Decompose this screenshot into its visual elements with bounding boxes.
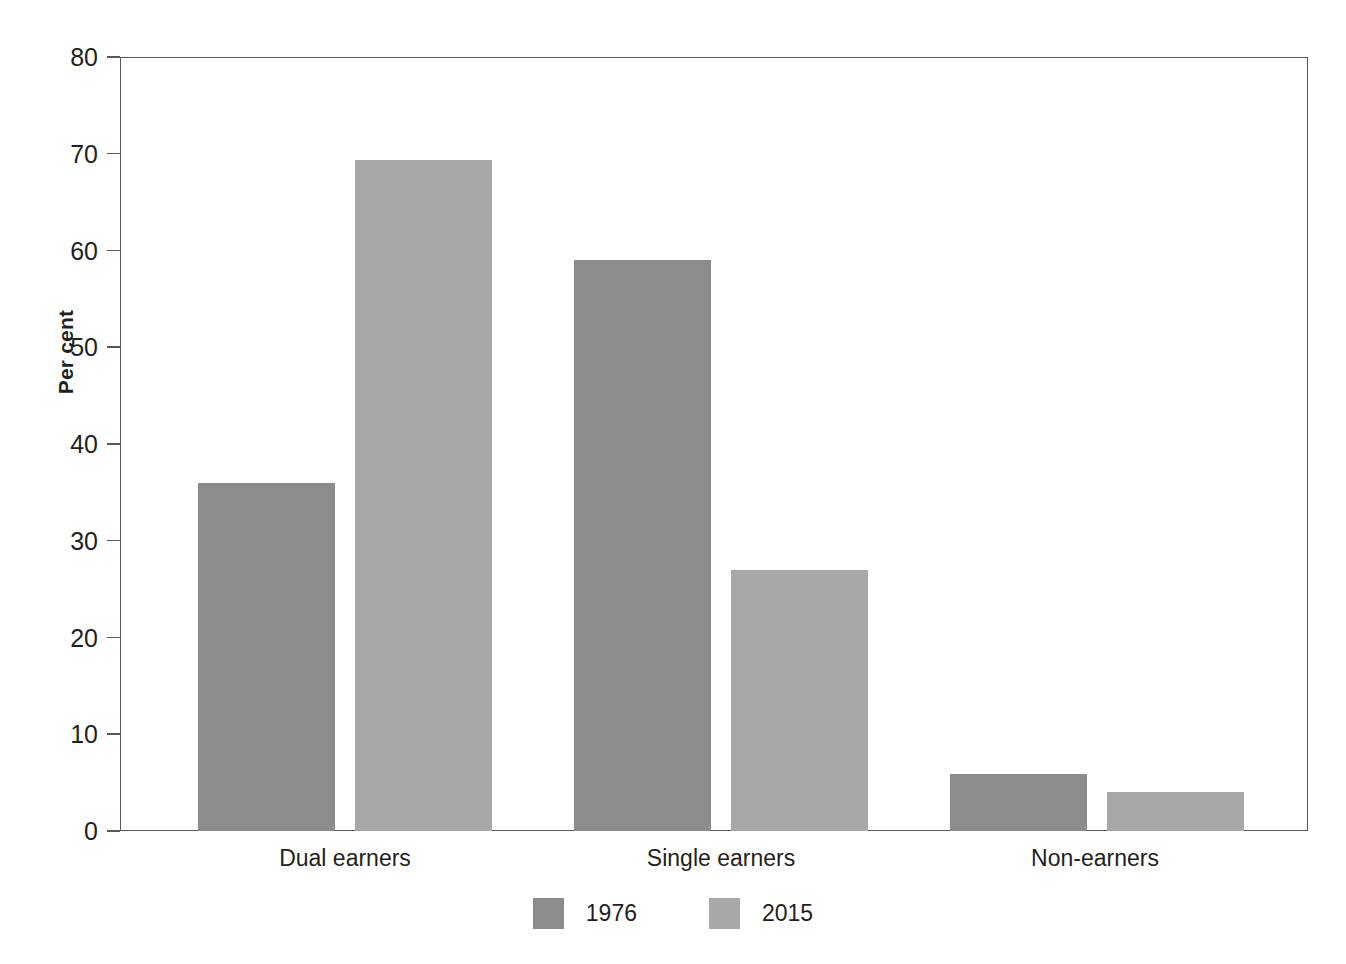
bar-non-earners-2015[interactable] <box>1107 792 1244 831</box>
bar-dual-earners-1976[interactable] <box>198 483 335 831</box>
y-tick-mark-80 <box>107 56 120 58</box>
y-tick-label-30: 30 <box>70 525 98 557</box>
y-tick-mark-70 <box>107 153 120 155</box>
bar-dual-earners-2015[interactable] <box>355 160 492 831</box>
y-tick-label-60: 60 <box>70 235 98 267</box>
bar-single-earners-1976[interactable] <box>574 260 711 831</box>
y-tick-mark-0 <box>107 830 120 832</box>
legend-swatch-1976 <box>533 898 564 929</box>
y-tick-20: 20 <box>0 638 120 639</box>
legend-label-2015: 2015 <box>762 900 813 927</box>
bar-chart-figure: Per cent 80 70 60 50 40 30 20 10 0 <box>0 0 1346 964</box>
legend-item-2015[interactable]: 2015 <box>709 898 813 929</box>
y-tick-label-70: 70 <box>70 138 98 170</box>
y-tick-label-80: 80 <box>70 41 98 73</box>
legend-item-1976[interactable]: 1976 <box>533 898 637 929</box>
y-tick-50: 50 <box>0 347 120 348</box>
y-tick-mark-20 <box>107 637 120 639</box>
legend-label-1976: 1976 <box>586 900 637 927</box>
y-tick-label-40: 40 <box>70 428 98 460</box>
y-tick-70: 70 <box>0 154 120 155</box>
y-tick-label-20: 20 <box>70 622 98 654</box>
category-label-single-earners: Single earners <box>574 845 868 872</box>
bar-single-earners-2015[interactable] <box>731 570 868 831</box>
bar-non-earners-1976[interactable] <box>950 774 1087 831</box>
y-tick-0: 0 <box>0 831 120 832</box>
y-tick-mark-50 <box>107 346 120 348</box>
y-tick-label-50: 50 <box>70 331 98 363</box>
y-tick-10: 10 <box>0 734 120 735</box>
y-tick-mark-40 <box>107 443 120 445</box>
category-label-non-earners: Non-earners <box>950 845 1240 872</box>
y-tick-mark-30 <box>107 540 120 542</box>
y-tick-label-0: 0 <box>84 815 98 847</box>
legend-swatch-2015 <box>709 898 740 929</box>
y-tick-30: 30 <box>0 541 120 542</box>
y-tick-mark-10 <box>107 733 120 735</box>
y-tick-80: 80 <box>0 57 120 58</box>
y-tick-40: 40 <box>0 444 120 445</box>
y-tick-label-10: 10 <box>70 718 98 750</box>
category-label-dual-earners: Dual earners <box>198 845 492 872</box>
y-tick-mark-60 <box>107 250 120 252</box>
legend: 1976 2015 <box>0 898 1346 929</box>
bars-layer <box>120 57 1308 831</box>
y-tick-60: 60 <box>0 251 120 252</box>
